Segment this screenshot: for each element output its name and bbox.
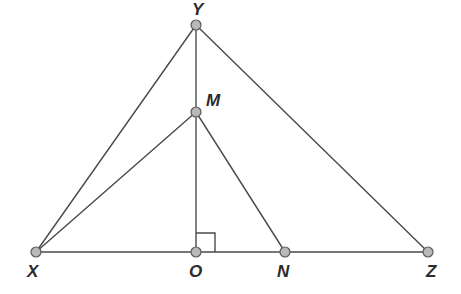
vertex-node-o[interactable] — [191, 247, 201, 257]
vertex-label-y: Y — [192, 1, 203, 18]
vertex-node-y[interactable] — [191, 20, 201, 30]
vertex-label-x: X — [27, 263, 38, 280]
geometry-figure — [0, 0, 461, 294]
vertex-label-o: O — [189, 263, 202, 280]
segment-xm — [36, 112, 196, 252]
segment-mn — [196, 112, 285, 252]
segment-yz — [196, 25, 428, 252]
vertex-node-z[interactable] — [423, 247, 433, 257]
vertex-node-n[interactable] — [280, 247, 290, 257]
diagram-canvas: Y M X O N Z — [0, 0, 461, 294]
vertex-nodes-group — [31, 20, 433, 257]
vertex-node-m[interactable] — [191, 107, 201, 117]
vertex-label-z: Z — [426, 263, 436, 280]
segments-group — [36, 25, 428, 252]
vertex-node-x[interactable] — [31, 247, 41, 257]
vertex-label-m: M — [206, 92, 220, 109]
vertex-label-n: N — [277, 263, 289, 280]
segment-xy — [36, 25, 196, 252]
